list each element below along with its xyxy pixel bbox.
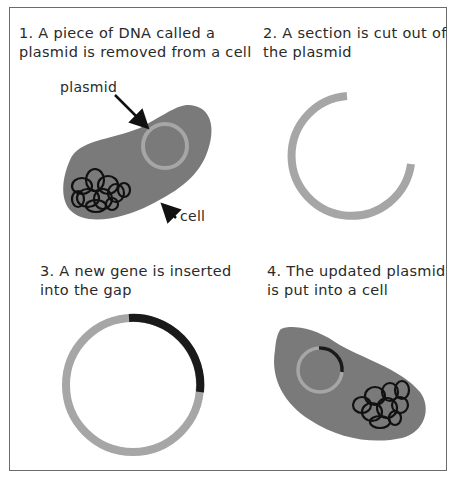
cell-1 (63, 95, 211, 219)
recombinant-plasmid (66, 318, 200, 452)
cut-plasmid (292, 96, 411, 216)
diagram-graphics (0, 0, 457, 483)
cell-4 (274, 327, 426, 440)
